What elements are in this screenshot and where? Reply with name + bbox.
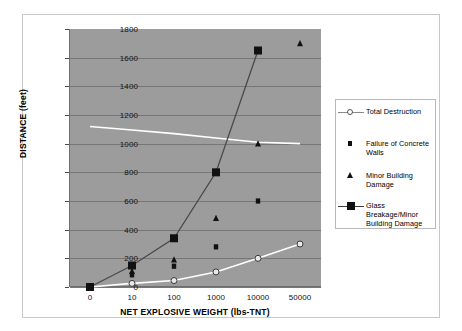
filled-square-icon bbox=[348, 141, 352, 146]
y-axis-tick-label: 200 bbox=[124, 254, 138, 263]
y-axis-tick-label: 1600 bbox=[120, 53, 138, 62]
legend-marker-icon bbox=[336, 170, 366, 182]
y-axis-tick-label: 1000 bbox=[120, 139, 138, 148]
series-overlay bbox=[69, 29, 321, 287]
data-point-marker bbox=[297, 40, 303, 46]
x-axis-tick-label: 10 bbox=[127, 293, 136, 302]
y-axis-tick-label: 400 bbox=[124, 225, 138, 234]
y-axis-tick-mark bbox=[65, 287, 69, 288]
x-axis-tick-label: 100 bbox=[167, 293, 181, 302]
legend-item[interactable]: Glass Breakage/Minor Building Damage bbox=[336, 200, 435, 228]
data-point-marker bbox=[213, 269, 219, 275]
data-point-marker bbox=[255, 255, 261, 261]
y-axis-tick-mark bbox=[65, 144, 69, 145]
legend-marker-icon bbox=[336, 106, 366, 118]
y-axis-tick-mark bbox=[65, 115, 69, 116]
chart-frame: DISTANCE (feet) NET EXPLOSIVE WEIGHT (lb… bbox=[22, 14, 440, 318]
legend-marker-icon bbox=[336, 138, 366, 150]
data-point-marker bbox=[172, 264, 176, 269]
legend-item[interactable]: Minor Building Damage bbox=[336, 170, 435, 189]
y-axis-tick-label: 1400 bbox=[120, 82, 138, 91]
data-point-marker bbox=[256, 198, 260, 203]
y-axis-tick-label: 1800 bbox=[120, 25, 138, 34]
y-axis-tick-mark bbox=[65, 86, 69, 87]
data-point-marker bbox=[171, 278, 177, 284]
data-point-marker bbox=[255, 140, 261, 146]
y-axis-tick-label: 0 bbox=[133, 283, 138, 292]
data-point-marker bbox=[212, 168, 220, 176]
data-point-marker bbox=[170, 234, 178, 242]
open-circle-icon bbox=[347, 109, 353, 115]
data-point-marker bbox=[213, 215, 219, 221]
y-axis-tick-mark bbox=[65, 230, 69, 231]
legend-label: Total Destruction bbox=[366, 106, 421, 116]
legend-label: Glass Breakage/Minor Building Damage bbox=[366, 200, 435, 228]
chart-screenshot: DISTANCE (feet) NET EXPLOSIVE WEIGHT (lb… bbox=[0, 0, 462, 331]
data-point-marker bbox=[86, 283, 94, 291]
series-line bbox=[90, 51, 258, 288]
data-point-marker bbox=[214, 244, 218, 249]
y-axis-tick-mark bbox=[65, 29, 69, 30]
y-axis-tick-mark bbox=[65, 201, 69, 202]
x-axis-title: NET EXPLOSIVE WEIGHT (lbs-TNT) bbox=[69, 307, 321, 317]
y-axis-tick-mark bbox=[65, 258, 69, 259]
x-axis-tick-label: 0 bbox=[88, 293, 93, 302]
data-point-marker bbox=[297, 241, 303, 247]
y-axis-title: DISTANCE (feet) bbox=[18, 89, 28, 158]
legend-label: Failure of Concrete Walls bbox=[366, 138, 435, 157]
legend-marker-icon bbox=[336, 200, 366, 212]
legend-item[interactable]: Total Destruction bbox=[336, 106, 435, 118]
filled-triangle-icon bbox=[347, 172, 353, 178]
legend-item[interactable]: Failure of Concrete Walls bbox=[336, 138, 435, 157]
x-axis-tick-label: 50000 bbox=[289, 293, 312, 302]
data-point-marker bbox=[171, 256, 177, 262]
x-axis-tick-label: 1000 bbox=[207, 293, 225, 302]
x-axis-tick-label: 10000 bbox=[247, 293, 270, 302]
y-axis-tick-mark bbox=[65, 172, 69, 173]
filled-square-icon bbox=[347, 202, 355, 210]
data-point-marker bbox=[254, 47, 262, 55]
series-line bbox=[90, 244, 300, 287]
y-axis-tick-label: 800 bbox=[124, 168, 138, 177]
legend-label: Minor Building Damage bbox=[366, 170, 435, 189]
gridline bbox=[70, 287, 321, 288]
chart-legend: Total DestructionFailure of Concrete Wal… bbox=[335, 99, 436, 229]
y-axis-tick-label: 600 bbox=[124, 197, 138, 206]
y-axis-tick-mark bbox=[65, 58, 69, 59]
y-axis-tick-label: 1200 bbox=[120, 111, 138, 120]
